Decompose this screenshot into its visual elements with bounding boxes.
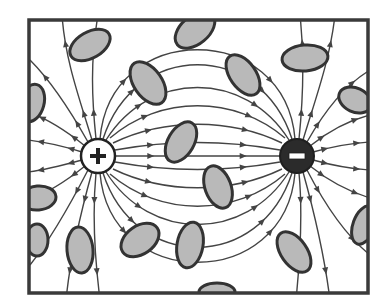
arrowhead-icon	[351, 189, 360, 197]
arrowhead-icon	[67, 145, 75, 153]
arrowhead-icon	[353, 140, 361, 147]
arrowhead-icon	[251, 203, 260, 212]
arrowhead-icon	[240, 141, 248, 148]
dielectric-molecule-ellipse	[65, 226, 95, 274]
arrowhead-icon	[147, 142, 155, 149]
arrowhead-icon	[298, 197, 304, 204]
arrowhead-icon	[251, 101, 260, 110]
arrowhead-icon	[94, 268, 101, 276]
arrowhead-icon	[134, 101, 143, 110]
dielectric-molecule-ellipse	[64, 23, 115, 68]
arrowhead-icon	[72, 187, 81, 196]
arrowhead-icon	[147, 153, 154, 159]
arrowhead-icon	[134, 202, 143, 211]
arrowhead-icon	[245, 192, 254, 200]
arrowhead-icon	[91, 197, 97, 204]
arrowhead-icon	[141, 112, 150, 120]
arrowhead-icon	[73, 119, 82, 128]
arrowhead-icon	[240, 153, 247, 159]
arrowhead-icon	[144, 126, 152, 133]
arrowhead-icon	[298, 109, 304, 116]
minus-icon	[289, 153, 305, 159]
arrowhead-icon	[147, 164, 155, 171]
arrowhead-icon	[144, 178, 152, 185]
positive-charge	[81, 139, 115, 173]
dielectric-molecule-ellipse	[281, 43, 329, 73]
arrowhead-icon	[307, 109, 315, 117]
arrowhead-icon	[80, 109, 88, 117]
dielectric-molecule-ellipse	[219, 49, 267, 102]
dielectric-molecule-ellipse	[270, 226, 318, 279]
dielectric-molecule-ellipse	[115, 216, 165, 263]
dielectric-molecule-ellipse	[123, 55, 173, 110]
dielectric-molecule-ellipse	[19, 184, 57, 211]
arrowhead-icon	[314, 186, 323, 195]
dielectric-molecule-ellipse	[347, 202, 381, 247]
arrowhead-icon	[81, 195, 89, 203]
dielectric-molecules	[15, 4, 381, 301]
arrowhead-icon	[313, 120, 322, 129]
arrowhead-icon	[141, 192, 150, 200]
arrowhead-icon	[353, 166, 361, 173]
arrowhead-icon	[240, 164, 248, 171]
dielectric-molecule-ellipse	[168, 4, 221, 55]
arrowhead-icon	[90, 109, 96, 116]
arrowhead-icon	[245, 112, 254, 120]
arrowhead-icon	[307, 195, 315, 203]
arrowhead-icon	[351, 116, 360, 124]
negative-charge	[280, 139, 314, 173]
electric-field-diagram	[0, 0, 391, 306]
